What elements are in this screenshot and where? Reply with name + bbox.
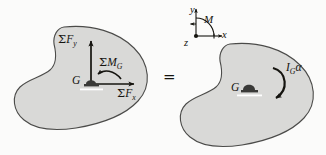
y-axis-label: y [190, 5, 195, 16]
figure-root: ΣFy ΣMG ΣFx G = y x z M IGα G [0, 0, 326, 155]
z-axis-label: z [184, 38, 188, 49]
equals-sign: = [163, 70, 176, 85]
z-axis-dot [194, 34, 198, 38]
sum-fx-label: ΣFx [117, 88, 136, 102]
moment-legend-label: M [204, 14, 213, 25]
ig-alpha-label: IGα [286, 62, 302, 76]
center-of-mass-label-right: G [231, 82, 239, 94]
sum-fy-label: ΣFy [58, 34, 77, 48]
center-of-mass-label-left: G [72, 75, 80, 87]
sum-mg-label: ΣMG [99, 57, 122, 71]
free-body-blob [14, 26, 147, 129]
x-axis-label: x [222, 30, 227, 41]
